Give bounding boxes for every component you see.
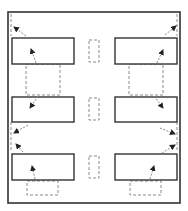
solid-boxes: [12, 38, 177, 180]
arrow-icon-a5: [16, 144, 23, 152]
dashed-box-mid-row2: [89, 98, 99, 120]
box-left-row1: [12, 38, 74, 64]
box-left-row3: [12, 154, 74, 180]
arrow-icon-b4: [160, 128, 175, 134]
box-right-row2: [115, 97, 177, 122]
dashed-box-left-bottom: [27, 181, 58, 195]
dashed-box-right-gap-12: [129, 64, 163, 95]
dashed-box-mid-row3: [89, 156, 99, 178]
box-left-row2: [12, 97, 74, 122]
arrow-icon-a4: [14, 125, 28, 133]
box-right-row3: [115, 154, 177, 180]
arrow-icon-b5: [162, 145, 175, 153]
parking-layout-diagram: [0, 0, 188, 211]
arrow-icon-b1: [165, 26, 176, 35]
box-right-row1: [115, 38, 177, 64]
arrow-icon-a1: [14, 27, 26, 36]
dashed-box-mid-row1: [89, 40, 99, 62]
dashed-box-right-bottom: [130, 181, 161, 195]
dashed-box-left-gap-12: [26, 64, 60, 95]
